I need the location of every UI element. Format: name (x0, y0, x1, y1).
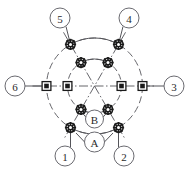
node-outer-120-gear-icon[interactable] (65, 39, 76, 50)
diagram-container: 1 2 3 4 5 6 A B (0, 0, 189, 173)
callout-5-label: 5 (57, 13, 63, 25)
callout-b-label: B (91, 114, 98, 126)
node-inner-300-gear-icon[interactable] (102, 104, 113, 115)
callout-4[interactable]: 4 (119, 8, 139, 28)
node-outer-180-square-icon[interactable] (42, 82, 51, 91)
callout-2-label: 2 (121, 151, 127, 163)
callout-a[interactable]: A (85, 132, 105, 152)
node-outer-0-square-icon[interactable] (138, 82, 147, 91)
leader-line-a-right (104, 133, 113, 142)
callout-3[interactable]: 3 (164, 76, 184, 96)
node-outer-240-gear-icon[interactable] (65, 122, 76, 133)
callout-6-label: 6 (12, 81, 18, 93)
node-inner-120-gear-icon[interactable] (75, 57, 86, 68)
node-inner-0-square-icon[interactable] (117, 82, 126, 91)
callout-3-label: 3 (171, 81, 177, 93)
schematic-canvas: 1 2 3 4 5 6 A B (0, 0, 189, 173)
node-outer-300-gear-icon[interactable] (113, 122, 124, 133)
callout-1[interactable]: 1 (55, 146, 75, 166)
callout-6[interactable]: 6 (5, 76, 25, 96)
callout-2[interactable]: 2 (114, 146, 134, 166)
node-outer-60-gear-icon[interactable] (113, 39, 124, 50)
callout-5[interactable]: 5 (50, 8, 70, 28)
node-inner-240-gear-icon[interactable] (75, 104, 86, 115)
leader-line-a-left (76, 133, 85, 142)
node-inner-180-square-icon[interactable] (63, 82, 72, 91)
callout-a-label: A (91, 137, 99, 149)
callout-b[interactable]: B (86, 110, 104, 128)
node-inner-60-gear-icon[interactable] (102, 57, 113, 68)
callout-4-label: 4 (126, 13, 132, 25)
callout-1-label: 1 (62, 151, 68, 163)
outer-arc-top (71, 38, 119, 44)
